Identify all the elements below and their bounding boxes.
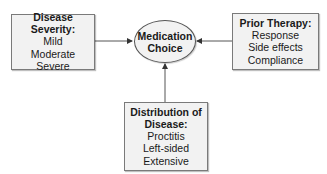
disease-severity-title: Disease Severity: [12, 11, 94, 35]
severity-item-moderate: Moderate [12, 48, 94, 61]
distribution-item-left-sided: Left-sided [125, 142, 207, 155]
severity-item-mild: Mild [12, 35, 94, 48]
disease-severity-box: Disease Severity: Mild Moderate Severe [11, 14, 95, 70]
therapy-item-compliance: Compliance [233, 54, 318, 67]
center-label-line2: Choice [147, 42, 182, 54]
distribution-title-line1: Distribution of [125, 106, 207, 118]
prior-therapy-title: Prior Therapy: [233, 17, 318, 29]
severity-item-severe: Severe [12, 60, 94, 73]
center-label-line1: Medication [138, 30, 193, 42]
distribution-item-extensive: Extensive [125, 155, 207, 168]
distribution-of-disease-box: Distribution of Disease: Proctitis Left-… [124, 102, 208, 171]
prior-therapy-box: Prior Therapy: Response Side effects Com… [232, 13, 319, 70]
therapy-item-response: Response [233, 29, 318, 42]
medication-choice-node: Medication Choice [134, 20, 196, 63]
therapy-item-side-effects: Side effects [233, 41, 318, 54]
distribution-item-proctitis: Proctitis [125, 130, 207, 143]
distribution-title-line2: Disease: [125, 118, 207, 130]
